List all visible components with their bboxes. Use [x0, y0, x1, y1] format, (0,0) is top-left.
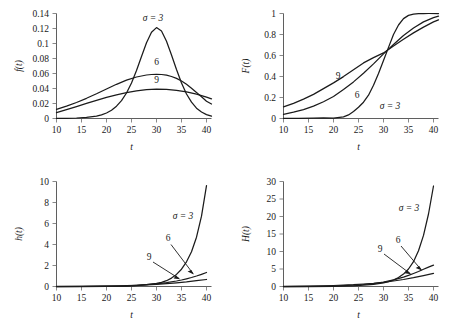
cumhaz-ytick-0: 0 [271, 282, 276, 292]
hazard-leader-9 [153, 262, 180, 279]
panel-cumulative-hazard: 0 5 10 15 20 25 30 10 15 20 25 30 35 40 … [227, 168, 453, 335]
hazard-ytick-8: 8 [44, 198, 49, 208]
hazard-xtick-20: 20 [102, 293, 112, 303]
cdf-annotation-9: 9 [336, 71, 341, 81]
cdf-ytick-0: 0 [271, 114, 276, 124]
hazard-xtick-30: 30 [152, 293, 162, 303]
pdf-annotation-sigma-3: σ = 3 [143, 13, 164, 23]
pdf-curve-sigma-3 [57, 28, 212, 119]
cdf-xtick-30: 30 [379, 125, 389, 135]
hazard-plot: 0 2 4 6 8 10 10 15 20 25 30 35 40 t h(t) [0, 168, 226, 335]
panel-cdf: 0 0.2 0.4 0.6 0.8 1 10 15 20 25 30 35 40… [227, 0, 453, 167]
pdf-xtick-35: 35 [177, 125, 187, 135]
hazard-xtick-10: 10 [52, 293, 62, 303]
cumhaz-x-axis-label: t [357, 310, 360, 320]
cumhaz-xtick-35: 35 [404, 293, 414, 303]
hazard-y-axis-label: h(t) [14, 227, 25, 241]
pdf-x-axis-label: t [130, 142, 133, 152]
pdf-ytick-0.02: 0.02 [32, 99, 49, 109]
cdf-x-ticks [284, 119, 434, 123]
pdf-plot: 0 0.02 0.04 0.06 0.08 0.1 0.12 0.14 10 1… [0, 0, 226, 167]
cumhaz-xtick-25: 25 [354, 293, 364, 303]
pdf-ytick-0.1: 0.1 [37, 39, 49, 49]
hazard-ytick-4: 4 [44, 240, 49, 250]
cumhaz-annotation-sigma-3: σ = 3 [399, 203, 420, 213]
pdf-y-axis-label: f(t) [14, 60, 25, 72]
pdf-annotation-6: 6 [154, 57, 159, 67]
hazard-ytick-10: 10 [40, 177, 50, 187]
hazard-curve-sigma-9 [57, 280, 207, 287]
cdf-annotation-6: 6 [355, 90, 360, 100]
cdf-curve-sigma-3 [284, 14, 439, 119]
hazard-y-ticks [53, 182, 57, 287]
cumhaz-ytick-30: 30 [267, 177, 277, 187]
hazard-annotation-sigma-3: σ = 3 [173, 211, 194, 221]
cdf-y-axis-label: F(t) [241, 59, 252, 75]
cdf-ytick-0.2: 0.2 [264, 93, 276, 103]
cumhaz-axes [284, 182, 439, 287]
hazard-xtick-25: 25 [127, 293, 137, 303]
cdf-plot: 0 0.2 0.4 0.6 0.8 1 10 15 20 25 30 35 40… [227, 0, 453, 167]
cumhaz-y-axis-label: H(t) [241, 226, 252, 243]
cdf-ytick-0.8: 0.8 [264, 30, 276, 40]
cdf-annotation-sigma-3: σ = 3 [380, 101, 401, 111]
cdf-curve-sigma-9 [284, 20, 439, 107]
cumulative-hazard-plot: 0 5 10 15 20 25 30 10 15 20 25 30 35 40 … [227, 168, 453, 335]
cumhaz-ytick-25: 25 [267, 194, 277, 204]
hazard-xtick-35: 35 [177, 293, 187, 303]
pdf-ytick-0.14: 0.14 [32, 9, 49, 19]
pdf-xtick-25: 25 [127, 125, 137, 135]
cumhaz-xtick-10: 10 [279, 293, 289, 303]
hazard-xtick-40: 40 [202, 293, 212, 303]
pdf-ytick-0.06: 0.06 [32, 69, 49, 79]
cumhaz-ytick-5: 5 [271, 264, 276, 274]
cumhaz-xtick-15: 15 [304, 293, 314, 303]
cumhaz-annotation-9: 9 [378, 244, 383, 254]
cdf-xtick-10: 10 [279, 125, 289, 135]
cumhaz-ytick-15: 15 [267, 229, 277, 239]
cumhaz-y-ticks [280, 182, 284, 287]
cdf-xtick-25: 25 [354, 125, 364, 135]
cumhaz-xtick-30: 30 [379, 293, 389, 303]
hazard-annotation-6: 6 [166, 233, 171, 243]
cdf-xtick-40: 40 [429, 125, 439, 135]
pdf-xtick-10: 10 [52, 125, 62, 135]
cdf-xtick-15: 15 [304, 125, 314, 135]
pdf-y-ticks [53, 14, 57, 119]
panel-pdf: 0 0.02 0.04 0.06 0.08 0.1 0.12 0.14 10 1… [0, 0, 226, 167]
cdf-xtick-20: 20 [329, 125, 339, 135]
hazard-ytick-0: 0 [44, 282, 49, 292]
hazard-curve-sigma-6 [57, 273, 207, 287]
pdf-xtick-20: 20 [102, 125, 112, 135]
hazard-xtick-15: 15 [77, 293, 87, 303]
panel-hazard: 0 2 4 6 8 10 10 15 20 25 30 35 40 t h(t) [0, 168, 226, 335]
hazard-axes [57, 182, 212, 287]
hazard-curve-sigma-3 [57, 186, 207, 287]
cumhaz-curve-sigma-3 [284, 186, 434, 287]
cdf-axes [284, 14, 439, 119]
cdf-ytick-1: 1 [271, 9, 276, 19]
hazard-leader-6 [171, 245, 194, 275]
cumhaz-ytick-20: 20 [267, 212, 277, 222]
pdf-axes [57, 14, 212, 119]
pdf-annotation-9: 9 [154, 75, 159, 85]
cumhaz-curve-sigma-6 [284, 265, 434, 286]
pdf-xtick-15: 15 [77, 125, 87, 135]
cdf-x-axis-label: t [357, 142, 360, 152]
cumhaz-ytick-10: 10 [267, 247, 277, 257]
pdf-xtick-30: 30 [152, 125, 162, 135]
hazard-ytick-6: 6 [44, 219, 49, 229]
cdf-y-ticks [280, 14, 284, 119]
cumhaz-annotation-6: 6 [396, 235, 401, 245]
hazard-x-axis-label: t [130, 310, 133, 320]
cumhaz-xtick-20: 20 [329, 293, 339, 303]
hazard-annotation-9: 9 [147, 252, 152, 262]
cumhaz-leader-9 [384, 254, 411, 274]
four-panel-figure: 0 0.02 0.04 0.06 0.08 0.1 0.12 0.14 10 1… [0, 0, 453, 335]
cumhaz-curve-sigma-9 [284, 273, 434, 286]
pdf-xtick-40: 40 [202, 125, 212, 135]
cdf-ytick-0.6: 0.6 [264, 51, 276, 61]
pdf-ytick-0.04: 0.04 [32, 84, 49, 94]
hazard-ytick-2: 2 [44, 261, 49, 271]
cumhaz-xtick-40: 40 [429, 293, 439, 303]
